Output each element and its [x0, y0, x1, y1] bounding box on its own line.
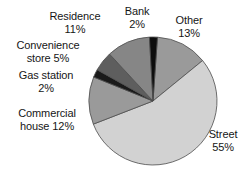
slice-label-other-name: Other: [163, 14, 215, 27]
slice-label-commercial-house-name: Commercial: [4, 107, 90, 120]
slice-label-residence: Residence 11%: [38, 10, 112, 35]
slice-label-residence-name: Residence: [38, 10, 112, 23]
slice-label-other-value: 13%: [163, 27, 215, 40]
slice-label-bank-value: 2%: [116, 18, 158, 31]
pie-chart: Residence 11% Bank 2% Other 13% Convenie…: [0, 0, 251, 183]
slice-label-gas-station-name: Gas station: [4, 69, 88, 82]
slice-label-street-name: Street: [198, 128, 248, 141]
slice-label-bank: Bank 2%: [116, 5, 158, 30]
slice-label-other: Other 13%: [163, 14, 215, 39]
slice-label-gas-station-value: 2%: [4, 82, 88, 95]
slice-label-convenience-store-value: store 5%: [6, 52, 90, 65]
slice-label-convenience-store: Convenience store 5%: [6, 39, 90, 64]
slice-label-street: Street 55%: [198, 128, 248, 153]
slice-label-street-value: 55%: [198, 141, 248, 154]
slice-label-bank-name: Bank: [116, 5, 158, 18]
slice-label-commercial-house: Commercial house 12%: [4, 107, 90, 132]
slice-label-commercial-house-value: house 12%: [4, 120, 90, 133]
slice-label-gas-station: Gas station 2%: [4, 69, 88, 94]
slice-label-residence-value: 11%: [38, 23, 112, 36]
slice-label-convenience-store-name: Convenience: [6, 39, 90, 52]
